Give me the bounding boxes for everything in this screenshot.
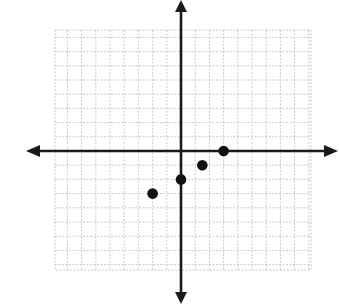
axes bbox=[26, 0, 338, 304]
arrow-left-icon bbox=[26, 145, 40, 157]
data-point bbox=[176, 174, 187, 185]
data-points bbox=[147, 146, 229, 199]
data-point bbox=[218, 146, 229, 157]
data-point bbox=[147, 188, 158, 199]
arrow-down-icon bbox=[175, 292, 187, 304]
data-point bbox=[197, 160, 208, 171]
arrow-right-icon bbox=[324, 145, 338, 157]
coordinate-plane bbox=[0, 0, 339, 306]
arrow-up-icon bbox=[175, 0, 187, 12]
